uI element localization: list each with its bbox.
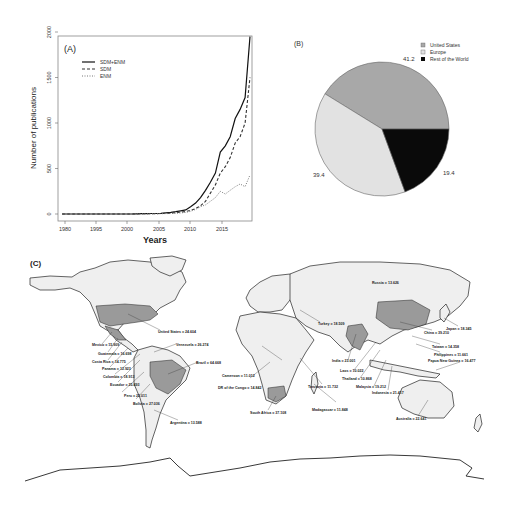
series-line-enm	[62, 175, 250, 214]
x-tick-label: 1995	[90, 226, 102, 232]
label-venezuela: Venezuela = 26.274	[176, 343, 208, 347]
x-tick-label: 2000	[121, 226, 133, 232]
legend-swatch-rest	[421, 57, 425, 61]
plot-frame	[58, 36, 252, 221]
series-line-sdm-enm	[62, 37, 250, 214]
panel-a-line-chart: 0500100015002000 19801995200020052010201…	[0, 0, 260, 250]
south-africa-shape	[268, 386, 286, 402]
x-tick-label: 2005	[153, 226, 165, 232]
y-tick-label: 500	[46, 164, 52, 173]
legend-swatch-europe	[421, 50, 425, 54]
label-thailand: Thailand = 10.868	[342, 377, 372, 381]
line-series	[62, 37, 250, 214]
label-colombia: Colombia = 18.913	[103, 375, 134, 379]
legend-item-sdm: SDM	[100, 66, 111, 72]
label-guatemala: Guatemala = 16.698	[98, 352, 131, 356]
label-australia: Australia = 22.641	[396, 417, 426, 421]
y-axis-label: Number of publications	[29, 87, 38, 169]
label-argentina: Argentina = 13.588	[170, 421, 202, 425]
x-axis-label: Years	[143, 235, 167, 245]
legend-item-sdm-enm: SDM+ENM	[100, 59, 125, 65]
pie-value-rest: 19.4	[443, 170, 455, 176]
label-taiwan: Taiwan = 14.358	[432, 345, 459, 349]
panel-c-world-map: (C)	[0, 248, 509, 508]
label-indonesia: Indonesia = 21.417	[372, 391, 404, 395]
y-tick-label: 1500	[46, 71, 52, 83]
panel-b-label: (B)	[294, 40, 303, 48]
australia-shape	[398, 380, 454, 418]
y-axis-ticks: 0500100015002000	[46, 26, 58, 216]
x-axis-ticks: 198019952000200520102015	[59, 221, 228, 232]
label-tanzania: Tanzania = 11.732	[308, 385, 338, 389]
pie-chart-svg: (B) 41.2 39.4 19.4 United States Europe …	[260, 0, 509, 250]
legend-item-enm: ENM	[100, 73, 111, 79]
label-panama: Panama = 12.923	[102, 367, 131, 371]
x-tick-label: 2010	[184, 226, 196, 232]
label-malaysia: Malaysia = 19.212	[356, 385, 386, 389]
series-line-sdm	[62, 78, 250, 215]
label-madagascar: Madagascar = 11.848	[312, 408, 348, 412]
pie-value-europe: 39.4	[313, 172, 325, 178]
line-chart-svg: 0500100015002000 19801995200020052010201…	[0, 0, 260, 250]
legend: SDM+ENM SDM ENM	[82, 59, 125, 79]
label-united-states: United States = 24.604	[158, 330, 196, 334]
label-peru: Peru = 22.011	[124, 394, 147, 398]
x-tick-label: 1980	[59, 226, 71, 232]
label-turkey: Turkey = 18.509	[318, 322, 345, 326]
panel-b-pie-chart: (B) 41.2 39.4 19.4 United States Europe …	[260, 0, 509, 250]
legend-item-us: United States	[430, 42, 461, 48]
x-tick-label: 2015	[216, 226, 228, 232]
legend-swatch-us	[421, 43, 425, 47]
new-zealand-shape	[474, 414, 482, 432]
antarctica-outline	[25, 455, 484, 481]
y-tick-label: 1000	[46, 117, 52, 129]
label-russia: Russia = 13.626	[372, 281, 399, 285]
label-ecuador: Ecuador = 25.493	[110, 383, 139, 387]
pie-value-us: 41.2	[403, 56, 415, 62]
label-south-africa: South Africa = 37.108	[250, 411, 286, 415]
label-china: China = 39.210	[424, 331, 449, 335]
panel-a-label: (A)	[64, 44, 76, 54]
label-drc: DR of the Congo = 14.842	[218, 386, 261, 390]
panel-c-label: (C)	[30, 259, 41, 268]
label-mexico: Mexico = 15.909	[92, 343, 119, 347]
y-tick-label: 0	[46, 212, 52, 215]
label-japan: Japan = 18.345	[446, 327, 471, 331]
label-costa-rica: Costa Rica = 14.775	[92, 360, 126, 364]
label-bolivia: Bolivia = 27.036	[133, 402, 160, 406]
label-philippines: Philippines = 11.661	[434, 353, 468, 357]
world-map-svg: (C)	[0, 248, 509, 508]
legend-item-rest: Rest of the World	[430, 56, 469, 62]
label-cameroon: Cameroon = 11.012	[222, 374, 255, 378]
usa-shape	[96, 304, 158, 326]
label-papua-new-guinea: Papua New Guinea = 16.477	[428, 359, 475, 363]
label-india: India = 23.001	[332, 359, 355, 363]
legend-item-europe: Europe	[430, 49, 446, 55]
pie-legend: United States Europe Rest of the World	[421, 42, 469, 62]
label-laos: Laos = 10.022	[340, 369, 363, 373]
y-tick-label: 2000	[46, 26, 52, 38]
label-brazil: Brazil = 64.668	[196, 361, 221, 365]
pie-slices	[315, 62, 449, 196]
